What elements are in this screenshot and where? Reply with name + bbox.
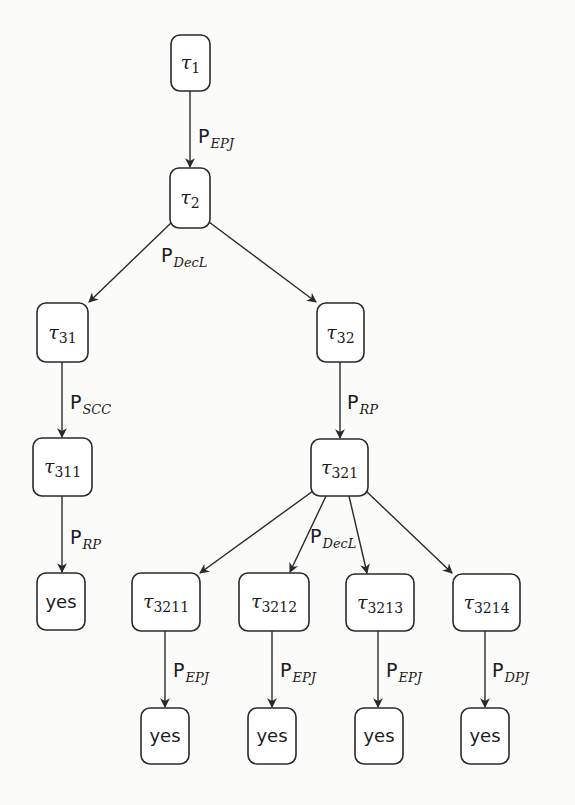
edge-t2-to-t32 (209, 222, 316, 302)
processor-subscript: DecL (172, 255, 207, 270)
node-y3214: yes (461, 708, 509, 764)
edge-label-t3213-yes: PEPJ (386, 659, 423, 685)
nodes-layer: τ1τ2τ31τ32τ311τ321yesτ3211τ3212τ3213τ321… (33, 35, 520, 764)
tau-symbol: τ (180, 186, 191, 208)
node-y3212: yes (248, 708, 296, 764)
processor-symbol: P (492, 659, 503, 681)
node-t1: τ1 (171, 35, 210, 91)
node-t3212: τ3212 (239, 573, 309, 631)
tau-symbol: τ (321, 456, 332, 478)
node-t311: τ311 (33, 438, 92, 496)
processor-symbol: P (386, 659, 397, 681)
processor-symbol: P (198, 125, 209, 147)
node-label-yes: yes (149, 725, 180, 746)
processor-subscript: DecL (321, 536, 356, 551)
processor-subscript: RP (81, 537, 101, 552)
edge-label-t32-t321: PRP (347, 391, 378, 417)
edge-label-t2-split: PDecL (161, 244, 208, 270)
node-t3213: τ3213 (346, 574, 414, 631)
node-y3213: yes (355, 708, 403, 764)
tau-symbol: τ (44, 455, 55, 477)
tau-symbol: τ (143, 590, 154, 612)
node-t3211: τ3211 (132, 573, 200, 631)
tau-symbol: τ (357, 591, 368, 613)
node-label-yes: yes (363, 725, 394, 746)
processor-subscript: EPJ (184, 670, 209, 685)
processor-symbol: P (70, 391, 81, 413)
edge-label-t3211-yes: PEPJ (173, 659, 210, 685)
node-label-yes: yes (256, 725, 287, 746)
edge-label-t1-t2: PEPJ (198, 125, 235, 151)
processor-symbol: P (347, 391, 358, 413)
tau-subscript: 311 (54, 464, 81, 480)
tau-subscript: 31 (59, 330, 77, 346)
derivation-tree-diagram: τ1τ2τ31τ32τ311τ321yesτ3211τ3212τ3213τ321… (0, 0, 575, 805)
processor-subscript: EPJ (291, 670, 316, 685)
processor-symbol: P (173, 659, 184, 681)
processor-subscript: EPJ (397, 670, 422, 685)
edge-label-t311-yes: PRP (70, 526, 101, 552)
tau-subscript: 3211 (153, 599, 189, 615)
node-t31: τ31 (37, 303, 88, 362)
tau-subscript: 321 (331, 465, 358, 481)
tau-symbol: τ (48, 321, 59, 343)
tau-symbol: τ (463, 591, 474, 613)
tau-subscript: 3214 (474, 600, 510, 616)
processor-symbol: P (280, 659, 291, 681)
node-t3214: τ3214 (453, 574, 520, 631)
processor-symbol: P (310, 525, 321, 547)
tau-subscript: 32 (337, 330, 355, 346)
edge-label-t3214-yes: PDPJ (492, 659, 530, 685)
tau-symbol: τ (181, 51, 192, 73)
processor-symbol: P (161, 244, 172, 266)
tau-subscript: 3212 (261, 599, 297, 615)
node-t32: τ32 (317, 303, 364, 362)
node-y311: yes (37, 573, 85, 630)
tau-subscript: 2 (191, 195, 200, 211)
edge-label-t31-t311: PSCC (70, 391, 111, 417)
processor-subscript: SCC (82, 402, 111, 417)
processor-subscript: EPJ (209, 136, 234, 151)
edge-t2-to-t31 (89, 222, 172, 302)
node-label-yes: yes (469, 725, 500, 746)
tau-symbol: τ (251, 590, 262, 612)
tau-symbol: τ (326, 321, 337, 343)
processor-subscript: RP (358, 402, 378, 417)
edge-label-t3212-yes: PEPJ (280, 659, 317, 685)
tau-subscript: 1 (191, 60, 200, 76)
processor-subscript: DPJ (503, 670, 529, 685)
edge-t321-to-t3214 (366, 491, 452, 573)
edge-t321-to-t3213 (349, 496, 367, 573)
tau-subscript: 3213 (367, 600, 403, 616)
node-t321: τ321 (311, 439, 368, 496)
node-t2: τ2 (170, 168, 210, 228)
node-label-yes: yes (45, 591, 76, 612)
processor-symbol: P (70, 526, 81, 548)
edge-label-t321-split: PDecL (310, 525, 357, 551)
node-y3211: yes (141, 708, 189, 764)
